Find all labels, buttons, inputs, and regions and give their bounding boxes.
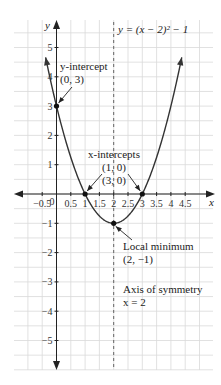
x-tick-label: 4: [168, 198, 173, 209]
point-x-intercept-2: [140, 191, 145, 196]
y-intercept-annotation-line: y-intercept: [60, 60, 108, 72]
axis-of-symmetry-annotation-line: x = 2: [123, 296, 146, 308]
y-axis-top-arrow: [53, 20, 60, 29]
y-tick-label: 5: [48, 42, 53, 53]
x-axis-left-arrow: [14, 191, 23, 198]
curve-arrowhead: [44, 57, 50, 65]
x-intercepts-annotation-line: (3, 0): [102, 174, 126, 187]
x-axis-label: x: [208, 196, 214, 208]
equation-label: y = (x − 2)² − 1: [117, 23, 188, 36]
x-tick-label: 1.5: [93, 198, 106, 209]
x-tick-label: 1: [83, 198, 88, 209]
x-tick-label: 4.5: [179, 198, 192, 209]
y-tick-label: −3: [42, 276, 53, 287]
x-tick-label: 2.5: [122, 198, 135, 209]
x-tick-label: 0.5: [65, 198, 78, 209]
point-y-intercept: [54, 104, 59, 109]
y-intercept-annotation-line: (0, 3): [60, 73, 84, 86]
x-intercepts-annotation-line: x-intercepts: [88, 148, 140, 160]
curve-arrowhead: [177, 57, 183, 65]
y-axis-label: y: [44, 19, 50, 31]
x-tick-label: 0: [50, 196, 55, 207]
y-tick-label: −2: [42, 247, 53, 258]
axis-of-symmetry-annotation-line: Axis of symmetry: [123, 283, 203, 295]
local-minimum-annotation-line: (2, −1): [123, 253, 153, 266]
point-local-minimum: [111, 221, 116, 226]
y-tick-label: 1: [48, 159, 53, 170]
point-x-intercept-1: [83, 191, 88, 196]
local-minimum-annotation-line: Local minimum: [123, 240, 194, 252]
x-intercept-2-arrowhead: [135, 185, 141, 191]
y-tick-label: −1: [42, 218, 53, 229]
parabola-chart: −0.500.511.522.533.544.554321−1−2−3−4−5 …: [0, 0, 221, 385]
x-intercepts-annotation-line: (1, 0): [102, 161, 126, 174]
y-tick-label: −4: [42, 306, 53, 317]
y-tick-label: 3: [48, 101, 53, 112]
y-tick-label: 2: [48, 130, 53, 141]
y-axis-bottom-arrow: [53, 361, 60, 370]
x-tick-label: 3: [140, 198, 145, 209]
x-tick-label: 3.5: [150, 198, 163, 209]
y-tick-label: −5: [42, 335, 53, 346]
